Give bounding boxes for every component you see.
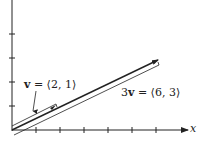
vector-diagram: [0, 0, 203, 147]
vector-v-bracket: [12, 104, 57, 126]
x-axis-label: x: [190, 123, 196, 134]
vector-v-label: v = ⟨2, 1⟩: [24, 79, 76, 90]
vector-3v-label: 3v = ⟨6, 3⟩: [121, 87, 180, 98]
vector-v-value: = ⟨2, 1⟩: [30, 78, 76, 91]
vector-3v-value: = ⟨6, 3⟩: [134, 86, 180, 99]
vector-3v-coef: 3: [121, 86, 128, 99]
v-label-pointer: [33, 91, 36, 111]
